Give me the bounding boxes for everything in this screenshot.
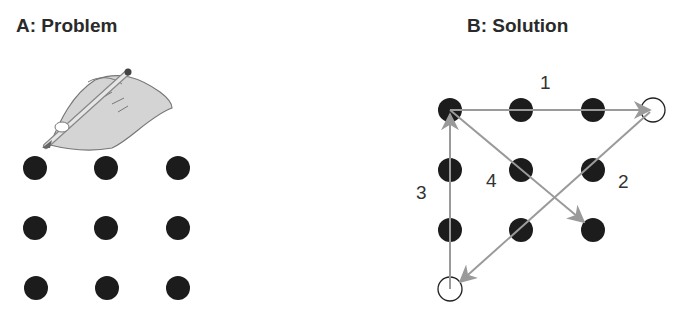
line-label-3: 3 (416, 182, 427, 204)
line-label-1: 1 (540, 72, 551, 94)
line-4 (450, 110, 584, 222)
line-label-2: 2 (618, 171, 629, 193)
hand-writing-pencil-icon (42, 69, 172, 151)
problem-dot-grid (23, 156, 190, 300)
nine-dot-diagram (0, 0, 688, 315)
line-label-4: 4 (486, 170, 497, 192)
